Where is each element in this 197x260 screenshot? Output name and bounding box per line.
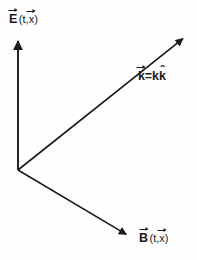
wave-vector-label: k =kkˆ [138, 66, 166, 83]
vector-arrow-accent-icon [137, 65, 146, 70]
magnetic-field-vector-line [18, 170, 126, 234]
wave-unit-vector-symbol: kˆ [159, 66, 166, 83]
equals-sign: = [145, 70, 152, 82]
vector-canvas [0, 0, 197, 260]
magnetic-field-label: B (t,x ) [139, 228, 168, 245]
position-symbol: x [29, 10, 35, 25]
electric-field-argument: (t,x ) [17, 10, 37, 25]
hat-accent-icon: ˆ [160, 64, 164, 77]
position-symbol: x [159, 229, 165, 244]
vector-arrow-accent-icon [9, 8, 18, 13]
vector-arrow-accent-icon [139, 227, 148, 232]
vector-diagram-figure: E (t,x ) k =kkˆ B (t,x ) [0, 0, 197, 260]
wave-vector-line [18, 39, 183, 170]
wave-number-scalar: k [152, 70, 159, 83]
vector-arrow-accent-icon [27, 9, 36, 14]
magnetic-field-argument: (t,x ) [148, 229, 168, 244]
magnetic-field-symbol: B [139, 228, 148, 245]
electric-field-label: E (t,x ) [9, 9, 38, 26]
wave-vector-symbol: k [138, 66, 145, 83]
electric-field-symbol: E [9, 9, 17, 26]
vector-arrow-accent-icon [158, 228, 167, 233]
